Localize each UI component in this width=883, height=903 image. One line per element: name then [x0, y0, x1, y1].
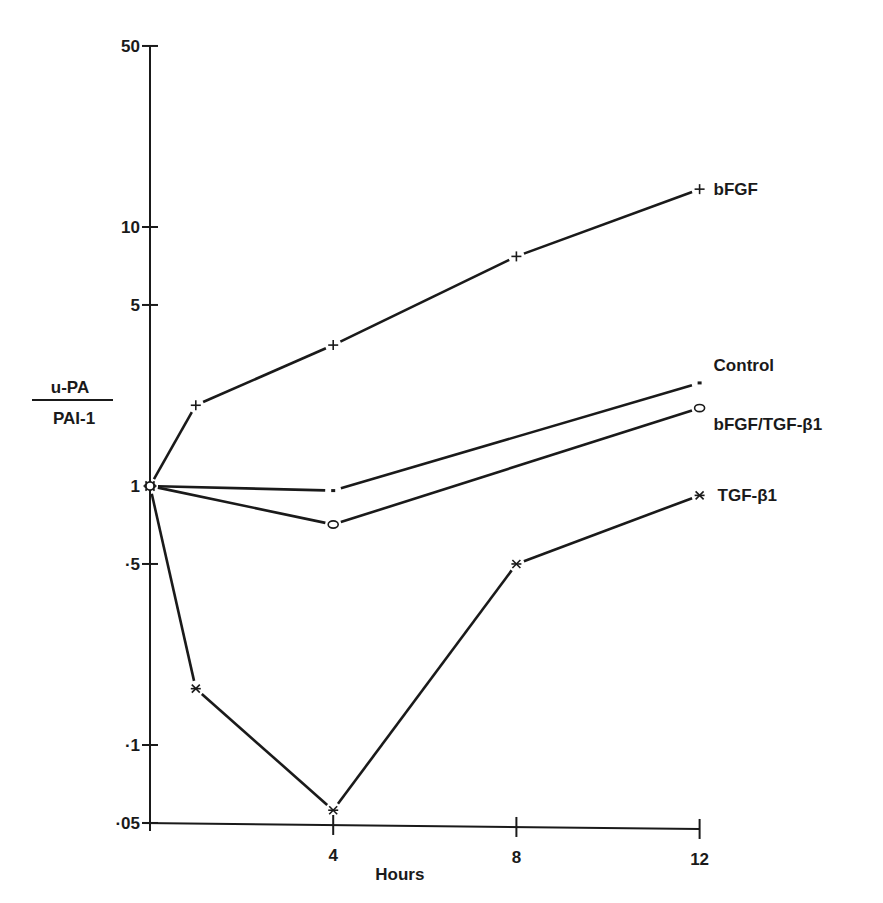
- series-segment: [158, 486, 325, 490]
- y-tick-label: ·5: [125, 555, 140, 574]
- x-tick-label: 8: [512, 848, 521, 867]
- series-label: bFGF: [714, 180, 758, 199]
- asterisk-marker-icon: [511, 560, 521, 568]
- series-segment: [338, 570, 512, 803]
- series-group: [144, 184, 705, 814]
- x-tick-label: 4: [328, 846, 338, 865]
- dot-marker-icon: [698, 381, 702, 384]
- series-segment: [203, 348, 326, 402]
- y-tick-label: ·1: [125, 736, 140, 755]
- x-tick-label: 12: [690, 850, 709, 869]
- diamond-marker-icon: [695, 404, 705, 411]
- series-segment: [341, 410, 692, 522]
- series-label: TGF-β1: [718, 486, 777, 505]
- y-axis-title-numerator: u-PA: [51, 378, 89, 397]
- dot-marker-icon: [331, 489, 335, 492]
- y-tick-label: 5: [131, 296, 140, 315]
- plus-marker-icon: [695, 184, 705, 194]
- series-control: [148, 381, 702, 492]
- series-bfgf-tgf-1: [145, 404, 705, 528]
- line-chart: ·05·1·51510504812 Hoursu-PAPAI-1bFGFCont…: [0, 0, 883, 903]
- x-axis-title: Hours: [375, 865, 424, 884]
- y-axis-title-denominator: PAI-1: [53, 409, 95, 428]
- series-label: Control: [714, 356, 774, 375]
- plus-marker-icon: [328, 340, 338, 350]
- series-segment: [202, 694, 327, 805]
- series-bfgf: [145, 184, 705, 491]
- y-tick-label: ·05: [115, 814, 140, 833]
- asterisk-marker-icon: [191, 685, 201, 693]
- series-segment: [152, 494, 194, 681]
- y-tick-label: 10: [121, 218, 140, 237]
- series-segment: [154, 412, 192, 479]
- y-tick-label: 1: [131, 477, 140, 496]
- axes: ·05·1·51510504812: [115, 37, 709, 869]
- series-label: bFGF/TGF-β1: [714, 415, 823, 434]
- series-segment: [524, 498, 692, 561]
- asterisk-marker-icon: [695, 491, 705, 499]
- plus-marker-icon: [511, 251, 521, 261]
- series-tgf-1: [145, 482, 705, 814]
- series-segment: [340, 260, 509, 342]
- origin-marker-icon: [144, 480, 157, 493]
- y-tick-label: 50: [121, 37, 140, 56]
- series-segment: [158, 488, 326, 523]
- asterisk-marker-icon: [328, 806, 338, 814]
- x-axis-line: [142, 823, 700, 829]
- plus-marker-icon: [191, 400, 201, 410]
- series-segment: [341, 385, 692, 488]
- diamond-marker-icon: [328, 521, 338, 528]
- series-segment: [524, 192, 692, 254]
